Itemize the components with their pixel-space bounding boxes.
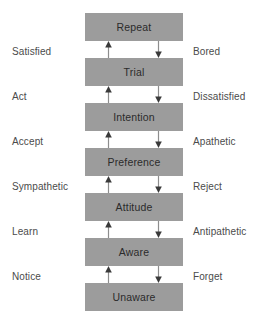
transition-arrows-1 <box>85 41 183 58</box>
stage-label: Aware <box>119 247 149 258</box>
stage-label: Unaware <box>112 292 155 303</box>
stage-label: Repeat <box>117 22 152 33</box>
transition-left-label-6: Notice <box>12 272 41 282</box>
stage-box-attitude: Attitude <box>85 193 183 221</box>
transition-right-label-1: Bored <box>193 47 220 57</box>
transition-left-label-2: Act <box>12 92 27 102</box>
transition-arrows-3 <box>85 131 183 148</box>
stage-box-unaware: Unaware <box>85 283 183 311</box>
transition-right-label-2: Dissatisfied <box>193 92 245 102</box>
stage-label: Preference <box>108 157 161 168</box>
stage-label: Intention <box>113 112 155 123</box>
stage-box-aware: Aware <box>85 238 183 266</box>
stage-label: Attitude <box>116 202 153 213</box>
stage-box-trial: Trial <box>85 58 183 86</box>
stage-box-preference: Preference <box>85 148 183 176</box>
transition-arrows-6 <box>85 266 183 283</box>
transition-arrows-5 <box>85 221 183 238</box>
stage-label: Trial <box>124 67 145 78</box>
transition-right-label-6: Forget <box>193 272 223 282</box>
transition-arrows-4 <box>85 176 183 193</box>
transition-left-label-5: Learn <box>12 227 38 237</box>
transition-arrows-2 <box>85 86 183 103</box>
transition-right-label-5: Antipathetic <box>193 227 246 237</box>
stage-box-repeat: Repeat <box>85 13 183 41</box>
transition-left-label-3: Accept <box>12 137 43 147</box>
stage-box-intention: Intention <box>85 103 183 131</box>
transition-left-label-4: Sympathetic <box>12 182 68 192</box>
transition-right-label-3: Apathetic <box>193 137 236 147</box>
transition-right-label-4: Reject <box>193 182 222 192</box>
transition-left-label-1: Satisfied <box>12 47 51 57</box>
